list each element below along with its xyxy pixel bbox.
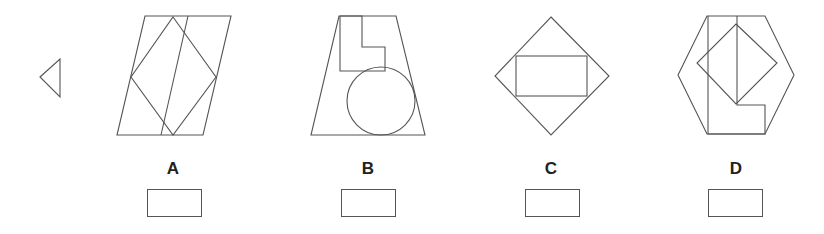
option-b-answer-box[interactable]	[341, 189, 396, 217]
option-a-answer-box[interactable]	[147, 189, 202, 217]
slanted-line	[161, 16, 188, 135]
figure-canvas	[0, 0, 824, 234]
option-d-figure	[678, 16, 794, 134]
trapezoid-shape	[311, 16, 425, 135]
diamond-shape	[495, 17, 609, 135]
option-c-answer-box[interactable]	[525, 189, 580, 217]
option-a-label: A	[167, 159, 179, 179]
given-triangle-shape	[40, 59, 60, 97]
option-b-label: B	[362, 159, 374, 179]
option-d-label: D	[730, 159, 742, 179]
option-a-figure	[117, 16, 231, 135]
option-d-answer-box[interactable]	[708, 189, 763, 217]
option-c-figure	[495, 17, 609, 135]
option-c-label: C	[545, 159, 557, 179]
l-shape	[340, 16, 385, 71]
rectangle-shape	[516, 56, 587, 96]
hexagon-shape	[678, 16, 794, 134]
circle-shape	[347, 67, 415, 135]
diamond-shape	[131, 17, 216, 135]
l-shape	[708, 16, 765, 134]
option-b-figure	[311, 16, 425, 135]
